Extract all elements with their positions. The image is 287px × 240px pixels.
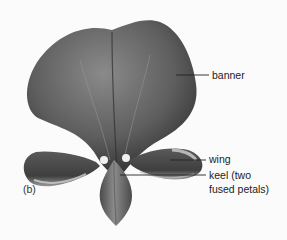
panel-label: (b) [23,183,36,195]
keel-label-line1: keel (two [209,169,251,182]
pea-flower-illustration [0,0,287,240]
petal-base-highlight [122,154,130,162]
wing-label: wing [209,153,231,166]
banner-label: banner [212,69,245,82]
petal-base-highlight [100,156,108,164]
left-wing-petal [24,151,100,186]
keel-petal [100,160,132,226]
keel-label-line2: fused petals) [209,183,269,196]
